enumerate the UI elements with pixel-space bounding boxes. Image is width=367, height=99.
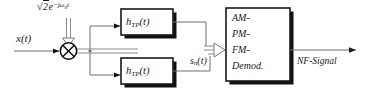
demodulator-line-fm: FM- — [232, 45, 250, 55]
filter-bottom-subscript: TP — [131, 70, 139, 78]
oscillator-label: √2e−jω0t — [37, 2, 69, 12]
demodulator-line-pm: PM- — [232, 29, 250, 39]
branch-lower — [90, 53, 120, 75]
filter-top-label: hTP(t) — [126, 17, 150, 29]
output-signal-label: NF-Signal — [297, 57, 337, 67]
oscillator-exponent-tail: t — [67, 1, 69, 9]
demodulator-line-demod: Demod. — [232, 61, 263, 71]
branch-upper — [90, 26, 120, 49]
diagram-wiring — [0, 0, 367, 99]
demod-input-arrow-head — [214, 43, 225, 57]
split-node — [88, 49, 91, 52]
filter-bottom-label: hTP(t) — [126, 66, 150, 78]
filter-top-subscript: TP — [131, 21, 139, 29]
sqrt-symbol: √ — [37, 1, 43, 12]
filter-top-output-line — [173, 22, 206, 46]
multiplier-symbol — [60, 43, 76, 59]
filtered-signal-label: sn(t) — [190, 56, 207, 67]
block-diagram-canvas: √2e−jω0t x(t) sn(t) NF-Signal hTP(t) hTP… — [0, 0, 367, 99]
oscillator-exponent: −jω — [53, 1, 65, 9]
mixer-output-bus — [77, 49, 138, 53]
filtered-signal-tail: (t) — [197, 55, 206, 66]
filter-top-tail: (t) — [140, 16, 150, 27]
filter-bottom-tail: (t) — [140, 65, 150, 76]
input-signal-label: x(t) — [16, 33, 31, 44]
oscillator-feed-line — [63, 18, 75, 46]
demod-input-bus — [204, 43, 225, 57]
demodulator-line-am: AM- — [232, 13, 250, 23]
